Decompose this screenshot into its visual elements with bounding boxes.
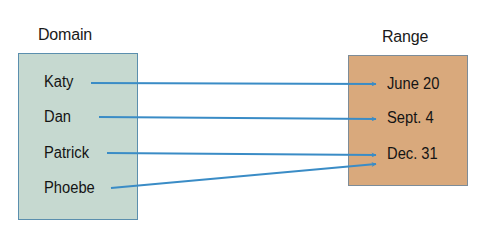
- arrow-katy-to-june-20: [91, 83, 376, 84]
- mapping-arrows: [0, 0, 492, 229]
- arrow-phoebe-to-dec-31: [111, 164, 376, 188]
- arrow-patrick-to-dec-31: [107, 153, 376, 155]
- arrow-dan-to-sept-4: [99, 117, 376, 119]
